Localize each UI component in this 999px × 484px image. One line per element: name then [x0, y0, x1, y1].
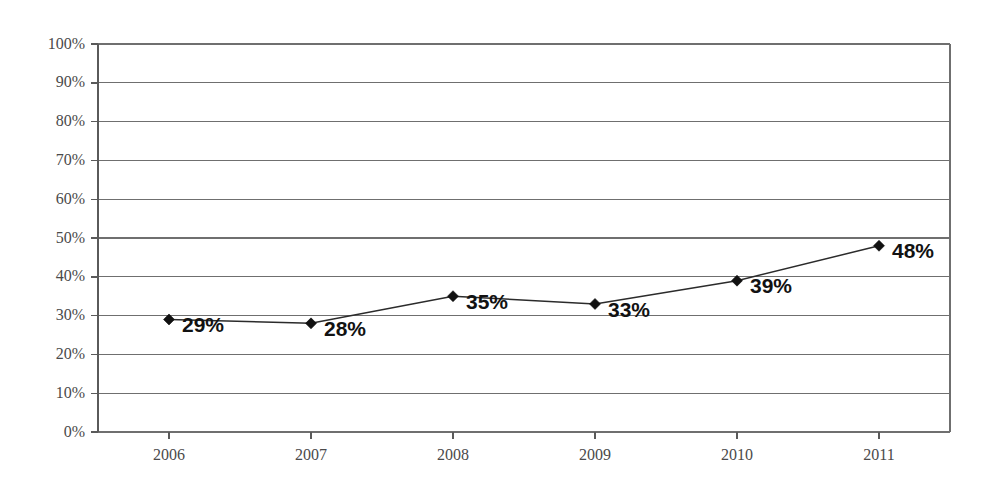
x-tick-label: 2008: [437, 446, 469, 463]
y-tick-label: 100%: [48, 35, 85, 52]
y-tick-label: 90%: [56, 73, 85, 90]
y-tick-label: 0%: [64, 423, 85, 440]
chart-canvas: 0%10%20%30%40%50%60%70%80%90%100% 200620…: [0, 0, 999, 484]
x-tick-label: 2010: [721, 446, 753, 463]
data-point-label: 48%: [892, 239, 934, 262]
y-tick-label: 20%: [56, 345, 85, 362]
y-tick-label: 40%: [56, 267, 85, 284]
data-point-label: 35%: [466, 290, 508, 313]
y-tick-label: 30%: [56, 306, 85, 323]
x-tick-label: 2007: [295, 446, 327, 463]
x-tick-label: 2011: [863, 446, 894, 463]
data-point-label: 33%: [608, 298, 650, 321]
data-point-label: 28%: [324, 317, 366, 340]
chart-background: [0, 0, 999, 484]
y-tick-label: 10%: [56, 384, 85, 401]
y-tick-label: 70%: [56, 151, 85, 168]
y-tick-label: 60%: [56, 190, 85, 207]
line-chart: 0%10%20%30%40%50%60%70%80%90%100% 200620…: [0, 0, 999, 484]
y-tick-label: 50%: [56, 229, 85, 246]
y-tick-label: 80%: [56, 112, 85, 129]
data-point-label: 39%: [750, 274, 792, 297]
data-point-label: 29%: [182, 313, 224, 336]
x-tick-label: 2006: [153, 446, 185, 463]
x-tick-label: 2009: [579, 446, 611, 463]
